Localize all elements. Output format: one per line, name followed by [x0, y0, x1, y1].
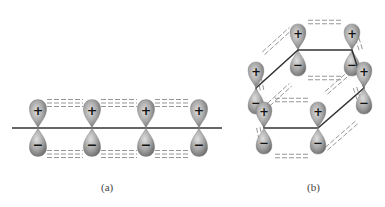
caption-a: (a)	[101, 181, 113, 193]
overlap-dash-line	[327, 124, 358, 151]
plus-sign-icon: +	[251, 65, 261, 79]
plus-sign-icon: +	[347, 27, 357, 41]
plus-sign-icon: +	[33, 103, 44, 118]
overlap-dash-line	[324, 121, 355, 148]
plus-sign-icon: +	[141, 103, 152, 118]
caption-b: (b)	[307, 181, 320, 193]
p-orbital-upper-lobe: +	[83, 100, 100, 128]
p-orbital-lower-lobe: −	[137, 128, 154, 156]
plus-sign-icon: +	[87, 103, 98, 118]
panel-b-hexagonal-ring: +−+−+−+−+−+−	[248, 20, 372, 158]
p-orbital-lower-lobe: −	[310, 128, 326, 154]
minus-sign-icon: −	[293, 58, 303, 72]
minus-sign-icon: −	[194, 137, 205, 152]
p-orbital-lower-lobe: −	[256, 128, 272, 154]
p-orbital-upper-lobe: +	[29, 100, 46, 128]
minus-sign-icon: −	[33, 137, 44, 152]
p-orbital-upper-lobe: +	[256, 102, 272, 128]
minus-sign-icon: −	[313, 136, 323, 150]
p-orbital-upper-lobe: +	[137, 100, 154, 128]
minus-sign-icon: −	[87, 137, 98, 152]
p-orbital-lower-lobe: −	[290, 50, 306, 76]
overlap-dash-line	[265, 30, 292, 55]
p-orbital-lower-lobe: −	[29, 128, 46, 156]
plus-sign-icon: +	[359, 65, 369, 79]
p-orbital-lower-lobe: −	[190, 128, 207, 156]
panel-a-linear-chain: +−+−+−+−	[12, 100, 222, 158]
p-orbital-upper-lobe: +	[290, 24, 306, 50]
p-orbital-upper-lobe: +	[356, 62, 372, 88]
minus-sign-icon: −	[141, 137, 152, 152]
p-orbital-upper-lobe: +	[248, 62, 264, 88]
minus-sign-icon: −	[259, 136, 269, 150]
plus-sign-icon: +	[293, 27, 303, 41]
overlap-dash-line	[262, 27, 289, 52]
plus-sign-icon: +	[259, 105, 269, 119]
orbital-overlap-figure: +−+−+−+− +−+−+−+−+−+−	[0, 0, 385, 207]
plus-sign-icon: +	[194, 103, 205, 118]
plus-sign-icon: +	[313, 105, 323, 119]
minus-sign-icon: −	[359, 96, 369, 110]
p-orbital-upper-lobe: +	[190, 100, 207, 128]
p-orbital-lower-lobe: −	[83, 128, 100, 156]
